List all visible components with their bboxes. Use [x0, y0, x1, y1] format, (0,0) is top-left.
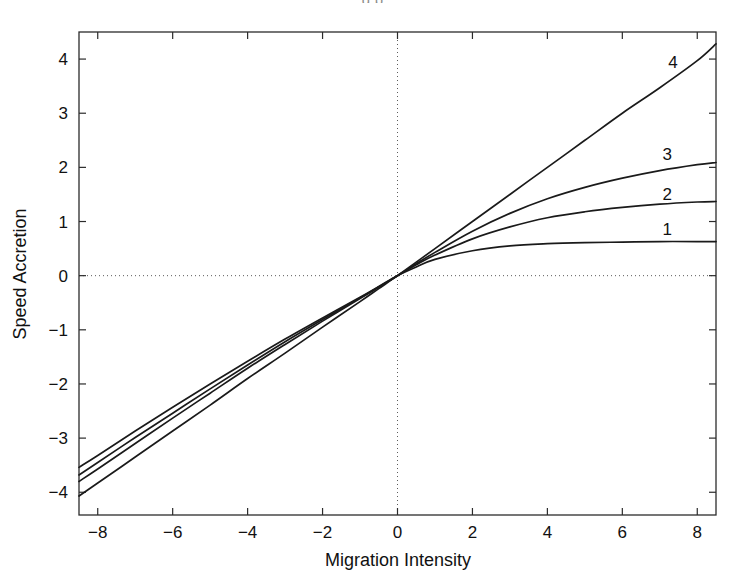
y-tick-label: −2 — [49, 375, 68, 394]
x-tick-label: 6 — [618, 523, 627, 542]
line-chart-svg: −8−6−4−202468 −4−3−2−101234 1234 Migrati… — [0, 0, 745, 578]
y-tick-label: −4 — [49, 483, 68, 502]
x-tick-label: 2 — [468, 523, 477, 542]
chart-figure: g p −8−6−4−202468 −4−3−2−101234 1234 Mig… — [0, 0, 745, 578]
x-tick-label: 8 — [693, 523, 702, 542]
y-axis-title: Speed Accretion — [10, 208, 30, 339]
chart-background — [0, 0, 745, 578]
x-tick-label: −6 — [163, 523, 182, 542]
y-tick-label: 3 — [59, 104, 68, 123]
y-tick-label: 2 — [59, 158, 68, 177]
curve-label-1: 1 — [663, 220, 672, 239]
y-tick-label: 0 — [59, 267, 68, 286]
y-tick-label: −1 — [49, 321, 68, 340]
x-axis-title: Migration Intensity — [325, 550, 471, 570]
clipped-header-text: g p — [0, 0, 745, 3]
x-tick-label: −4 — [238, 523, 257, 542]
x-tick-label: −2 — [313, 523, 332, 542]
curve-label-3: 3 — [663, 145, 672, 164]
y-tick-label: −3 — [49, 429, 68, 448]
x-tick-label: 4 — [543, 523, 552, 542]
curve-label-4: 4 — [668, 53, 677, 72]
x-tick-label: 0 — [393, 523, 402, 542]
x-tick-label: −8 — [88, 523, 107, 542]
y-tick-label: 4 — [59, 50, 68, 69]
y-tick-label: 1 — [59, 213, 68, 232]
curve-label-2: 2 — [663, 185, 672, 204]
